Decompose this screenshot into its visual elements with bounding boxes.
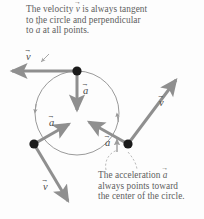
- velocity-top-leader-line: [41, 54, 49, 62]
- point-marker-top: [72, 66, 81, 75]
- acceleration-symbol: a: [163, 170, 168, 180]
- circle-direction-arrow-left: [35, 104, 36, 112]
- acceleration-symbol: a: [36, 25, 41, 35]
- caption-bottom-leader-line-2: [128, 152, 137, 169]
- label-acceleration-lower-left: a: [49, 118, 54, 129]
- circle-direction-arrow-right: [117, 114, 118, 122]
- velocity-vector-lower-right: [128, 80, 176, 144]
- caption-top-line-2: to the circle and perpendicular: [26, 15, 147, 26]
- caption-top-line-3: to a at all points.: [26, 25, 147, 36]
- caption-bottom-line-2: always points toward: [98, 181, 185, 192]
- caption-bottom-leader-line: [106, 150, 118, 170]
- velocity-symbol: v: [76, 4, 80, 14]
- point-marker-lower-right: [123, 139, 132, 148]
- label-velocity-lower-right: v: [159, 98, 164, 109]
- circular-motion-figure: The velocity v is always tangent to the …: [0, 0, 204, 219]
- point-marker-lower-left: [29, 139, 38, 148]
- caption-top-line-1: The velocity v is always tangent: [26, 4, 147, 15]
- label-velocity-top: v: [26, 52, 31, 63]
- label-acceleration-top: a: [83, 86, 88, 97]
- caption-bottom-line-1: The acceleration a: [98, 170, 185, 181]
- caption-top: The velocity v is always tangent to the …: [26, 4, 147, 36]
- label-acceleration-lower-right: a: [105, 138, 110, 149]
- caption-bottom-line-3: the center of the circle.: [98, 191, 185, 202]
- caption-bottom: The acceleration a always points toward …: [98, 170, 185, 202]
- label-velocity-lower-left: v: [43, 182, 48, 193]
